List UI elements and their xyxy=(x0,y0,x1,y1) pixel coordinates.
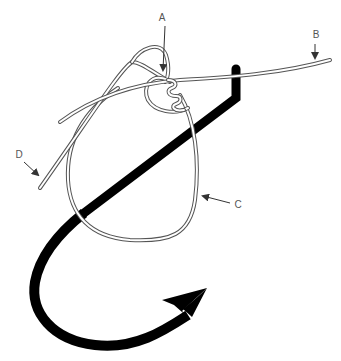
label-c: C xyxy=(234,199,241,210)
label-d: D xyxy=(15,149,22,160)
fish-hook xyxy=(34,69,236,346)
label-a: A xyxy=(159,12,166,23)
hook-bend xyxy=(34,213,188,346)
arrow-c-icon xyxy=(203,196,230,203)
label-a-group: A xyxy=(159,12,166,70)
label-c-group: C xyxy=(203,196,242,210)
arrow-d-icon xyxy=(24,162,38,175)
fishing-knot-diagram: A B C D xyxy=(0,0,341,361)
standing-line-b xyxy=(60,60,330,122)
label-b: B xyxy=(313,29,320,40)
label-d-group: D xyxy=(15,149,38,175)
label-b-group: B xyxy=(313,29,320,58)
